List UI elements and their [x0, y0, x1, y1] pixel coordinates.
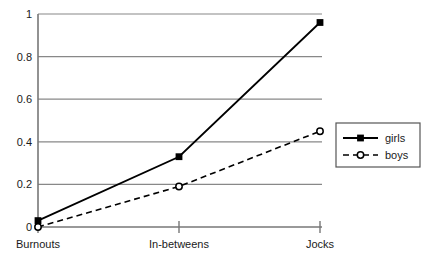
y-tick-label-0.4: 0.4 — [17, 136, 32, 148]
data-point-girls-jocks — [317, 19, 324, 26]
line-chart: 1 0.8 0.6 0.4 0.2 0 Burnouts In-betweens… — [0, 0, 427, 260]
y-tick-label-0: 0 — [26, 221, 32, 233]
x-label-burnouts: Burnouts — [16, 238, 61, 250]
y-axis-tick-labels: 1 0.8 0.6 0.4 0.2 0 — [17, 8, 32, 233]
axes — [38, 14, 322, 227]
legend-marker-boys-circle — [357, 152, 363, 158]
legend: girls boys — [336, 123, 420, 167]
series-girls — [35, 19, 324, 224]
y-tick-label-0.2: 0.2 — [17, 178, 32, 190]
data-point-boys-jocks — [317, 128, 323, 134]
y-tick-label-0.6: 0.6 — [17, 93, 32, 105]
data-point-girls-burnouts — [35, 217, 42, 224]
x-label-jocks: Jocks — [306, 238, 335, 250]
y-tick-label-0.8: 0.8 — [17, 51, 32, 63]
series-girls-line — [38, 23, 320, 221]
series-boys-line — [38, 131, 320, 227]
series-boys — [35, 128, 323, 230]
x-axis-category-labels: Burnouts In-betweens Jocks — [16, 238, 335, 250]
data-point-girls-in-betweens — [176, 153, 183, 160]
data-point-boys-burnouts — [35, 224, 41, 230]
legend-label-girls: girls — [385, 132, 406, 144]
x-label-in-betweens: In-betweens — [149, 238, 209, 250]
legend-label-boys: boys — [385, 149, 409, 161]
legend-marker-girls-square — [357, 135, 364, 142]
y-tick-label-1: 1 — [26, 8, 32, 20]
chart-canvas: 1 0.8 0.6 0.4 0.2 0 Burnouts In-betweens… — [0, 0, 427, 260]
data-point-boys-in-betweens — [176, 183, 182, 189]
